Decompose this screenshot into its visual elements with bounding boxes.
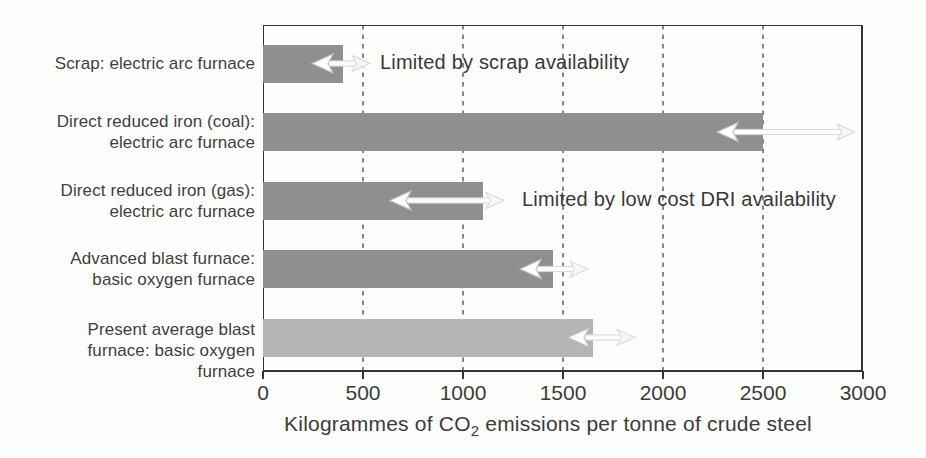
x-tick-label-500: 500: [323, 381, 403, 405]
category-label-line: furnace: basic oxygen: [5, 340, 255, 361]
reduction-arrow-present-avg-bf-bof: [568, 328, 635, 347]
x-tick-label-2500: 2500: [723, 381, 803, 405]
arrow-shaft: [325, 61, 359, 66]
x-tick-mark-3000: [862, 371, 864, 379]
annotation-dri-note: Limited by low cost DRI availability: [522, 188, 836, 211]
x-tick-mark-500: [362, 371, 364, 379]
reduction-arrow-advanced-bf-bof: [520, 260, 588, 279]
category-label-line: Advanced blast furnace:: [5, 248, 255, 269]
category-label-line: Direct reduced iron (gas):: [5, 180, 255, 201]
reduction-arrow-dri-gas-eaf: [390, 191, 504, 210]
category-label-line: furnace: [5, 361, 255, 382]
x-axis-title: Kilogrammes of CO2 emissions per tonne o…: [248, 412, 848, 436]
category-label-present-avg-bf-bof: Present average blastfurnace: basic oxyg…: [5, 319, 255, 382]
category-label-scrap-eaf: Scrap: electric arc furnace: [5, 53, 255, 74]
category-label-line: Scrap: electric arc furnace: [5, 53, 255, 74]
x-tick-label-3000: 3000: [823, 381, 903, 405]
reduction-arrow-dri-coal-eaf: [717, 123, 855, 142]
category-label-line: basic oxygen furnace: [5, 269, 255, 290]
x-tick-label-0: 0: [223, 381, 303, 405]
annotation-scrap-note: Limited by scrap availability: [380, 51, 629, 74]
arrow-shaft: [403, 198, 493, 203]
category-label-line: electric arc furnace: [5, 132, 255, 153]
category-label-dri-coal-eaf: Direct reduced iron (coal):electric arc …: [5, 111, 255, 153]
x-tick-mark-1000: [462, 371, 464, 379]
category-label-dri-gas-eaf: Direct reduced iron (gas):electric arc f…: [5, 180, 255, 222]
arrow-shaft: [533, 266, 577, 271]
x-tick-mark-0: [262, 371, 264, 379]
x-tick-label-1500: 1500: [523, 381, 603, 405]
x-tick-mark-1500: [562, 371, 564, 379]
x-tick-label-2000: 2000: [623, 381, 703, 405]
x-tick-mark-2500: [762, 371, 764, 379]
category-label-line: electric arc furnace: [5, 201, 255, 222]
x-tick-label-1000: 1000: [423, 381, 503, 405]
category-label-advanced-bf-bof: Advanced blast furnace:basic oxygen furn…: [5, 248, 255, 290]
category-label-line: Direct reduced iron (coal):: [5, 111, 255, 132]
figure: Scrap: electric arc furnaceDirect reduce…: [0, 0, 926, 458]
x-axis-title-suffix: emissions per tonne of crude steel: [479, 412, 812, 435]
x-tick-mark-2000: [662, 371, 664, 379]
arrow-shaft: [581, 335, 624, 340]
x-axis-title-prefix: Kilogrammes of CO: [284, 412, 471, 435]
category-label-line: Present average blast: [5, 319, 255, 340]
x-axis-title-subscript: 2: [471, 422, 480, 439]
arrow-shaft: [730, 129, 844, 134]
reduction-arrow-scrap-eaf: [312, 54, 370, 73]
